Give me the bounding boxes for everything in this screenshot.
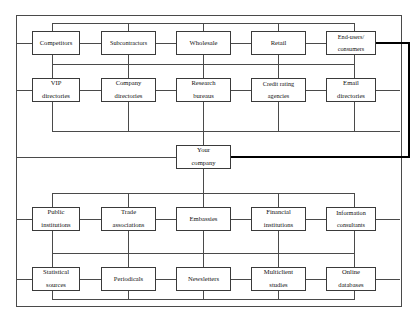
node-newsletters[interactable]: Newsletters xyxy=(176,267,231,291)
drop-r2-c4 xyxy=(278,102,279,131)
node-email-directories[interactable]: Email directories xyxy=(326,78,376,102)
link-r1-4-5 xyxy=(306,43,326,44)
link-r4-2-3 xyxy=(156,279,176,280)
node-label-line1: VIP xyxy=(41,80,71,87)
node-label-line2: bureaus xyxy=(190,93,216,100)
node-label-line1: End-users/ xyxy=(337,34,365,40)
node-label-line1: Multiclient xyxy=(263,269,294,276)
link-r3-1-2 xyxy=(80,219,101,220)
node-label-line1: Statistical xyxy=(42,269,70,276)
stub-left-r1 xyxy=(16,43,32,44)
node-label-line2: institutions xyxy=(40,222,71,229)
riser-r4-c2 xyxy=(128,253,129,267)
node-label: Subcontractors xyxy=(109,40,148,46)
drop-r3-c4 xyxy=(278,231,279,253)
drop-r4-c2 xyxy=(128,291,129,299)
drop-r2-c2 xyxy=(128,102,129,131)
node-statistical-sources[interactable]: Statistical sources xyxy=(32,267,80,291)
node-label-line2: company xyxy=(190,160,216,167)
center-feed-top xyxy=(203,131,204,145)
node-label-line1: Email xyxy=(336,80,366,87)
riser-r3-c2 xyxy=(128,193,129,207)
drop-r3-c3 xyxy=(203,231,204,253)
node-label-line2: consumers xyxy=(337,46,365,52)
link-r3-4-5 xyxy=(306,219,326,220)
link-r1-2-3 xyxy=(156,43,176,44)
node-your-company[interactable]: Your company xyxy=(176,145,231,169)
stub-left-r3 xyxy=(16,219,32,220)
node-periodicals[interactable]: Periodicals xyxy=(101,267,156,291)
node-label-line1: Company xyxy=(114,80,144,87)
link-r3-2-3 xyxy=(156,219,176,220)
riser-r2-c3 xyxy=(203,64,204,78)
riser-r3-c1 xyxy=(52,193,53,207)
node-label-line2: sources xyxy=(42,282,70,289)
node-retail[interactable]: Retail xyxy=(251,31,306,55)
node-label-line2: directories xyxy=(336,93,366,100)
node-label: Competitors xyxy=(39,40,74,47)
riser-r4-c5 xyxy=(354,253,355,267)
link-r4-1-2 xyxy=(80,279,101,280)
node-label-line1: Trade xyxy=(112,209,146,216)
node-label-line2: studies xyxy=(263,282,294,289)
node-competitors[interactable]: Competitors xyxy=(32,31,80,55)
node-information-consultants[interactable]: Information consultants xyxy=(326,207,376,231)
node-multiclient-studies[interactable]: Multiclient studies xyxy=(251,267,306,291)
stub-left-r4 xyxy=(16,279,32,280)
node-credit-rating-agencies[interactable]: Credit rating agencies xyxy=(251,78,306,102)
node-wholesale[interactable]: Wholesale xyxy=(176,31,231,55)
drop-r3-c1 xyxy=(52,231,53,253)
drop-r1-c2 xyxy=(128,55,129,64)
node-label-line1: Information xyxy=(335,210,367,216)
riser-r4-c4 xyxy=(278,253,279,267)
link-r2-3-4 xyxy=(231,90,251,91)
link-r4-3-4 xyxy=(231,279,251,280)
node-online-databases[interactable]: Online databases xyxy=(326,267,376,291)
drop-r2-c5 xyxy=(354,102,355,131)
link-r2-2-3 xyxy=(156,90,176,91)
node-embassies[interactable]: Embassies xyxy=(176,207,231,231)
link-r3-3-4 xyxy=(231,219,251,220)
node-company-directories[interactable]: Company directories xyxy=(101,78,156,102)
center-feed-bottom xyxy=(203,169,204,193)
node-subcontractors[interactable]: Subcontractors xyxy=(101,31,156,55)
drop-r4-c1 xyxy=(52,291,53,299)
highlight-segment-from-end-users xyxy=(376,42,410,44)
highlight-segment-into-your-company xyxy=(231,156,410,158)
riser-r2-c2 xyxy=(128,64,129,78)
drop-r4-c4 xyxy=(278,291,279,299)
rail-bottom xyxy=(52,299,355,300)
node-label-line2: databases xyxy=(337,282,364,289)
drop-r1-c1 xyxy=(52,55,53,64)
stub-left-r2 xyxy=(16,90,32,91)
drop-r4-c5 xyxy=(354,291,355,299)
riser-r2-c5 xyxy=(354,64,355,78)
node-vip-directories[interactable]: VIP directories xyxy=(32,78,80,102)
drop-r1-c3 xyxy=(203,55,204,64)
node-public-institutions[interactable]: Public institutions xyxy=(32,207,80,231)
drop-r4-c3 xyxy=(203,291,204,299)
link-r1-3-4 xyxy=(231,43,251,44)
drop-r3-c5 xyxy=(354,231,355,253)
node-label: Wholesale xyxy=(189,40,219,47)
highlight-segment-vertical xyxy=(408,42,410,158)
node-label-line2: directories xyxy=(114,93,144,100)
node-label-line1: Financial xyxy=(263,209,294,216)
node-trade-associations[interactable]: Trade associations xyxy=(101,207,156,231)
node-label-line1: Credit rating xyxy=(262,81,295,87)
node-label: Retail xyxy=(270,40,288,47)
riser-r3-c3 xyxy=(203,193,204,207)
link-r2-4-5 xyxy=(306,90,326,91)
node-label-line2: directories xyxy=(41,93,71,100)
link-r1-1-2 xyxy=(80,43,101,44)
node-financial-institutions[interactable]: Financial institutions xyxy=(251,207,306,231)
node-end-users-consumers[interactable]: End-users/ consumers xyxy=(326,31,376,55)
link-r4-4-5 xyxy=(306,279,326,280)
node-label-line1: Research xyxy=(190,80,216,87)
drop-r1-c5 xyxy=(354,55,355,64)
riser-r3-c4 xyxy=(278,193,279,207)
node-research-bureaus[interactable]: Research bureaus xyxy=(176,78,231,102)
node-label-line1: Public xyxy=(40,209,71,216)
node-label-line1: Your xyxy=(190,147,216,154)
diagram-canvas: Competitors Subcontractors Wholesale Ret… xyxy=(0,0,416,322)
